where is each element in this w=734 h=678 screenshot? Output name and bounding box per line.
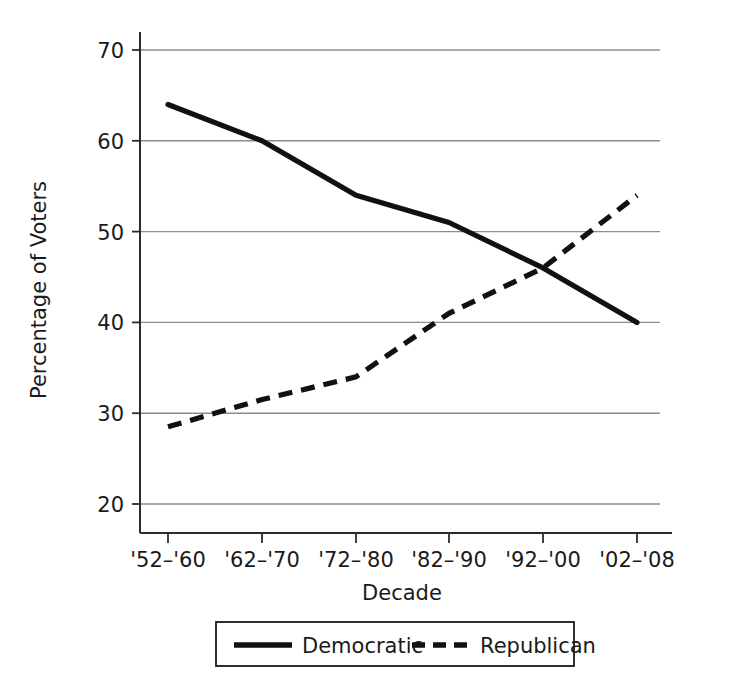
- y-tick-label-70: 70: [97, 39, 124, 63]
- voter-percentage-line-chart: 70 60 50 40 30 20 '52–'60 '62–'70 '72–'8…: [0, 0, 734, 678]
- legend-label-republican: Republican: [480, 634, 596, 658]
- x-tick-label-3: '72–'80: [318, 548, 394, 572]
- y-tick-label-50: 50: [97, 221, 124, 245]
- y-tick-labels: 70 60 50 40 30 20: [97, 39, 124, 517]
- series-line-republican: [168, 195, 637, 427]
- chart-figure: 70 60 50 40 30 20 '52–'60 '62–'70 '72–'8…: [0, 0, 734, 678]
- gridlines: [140, 50, 660, 504]
- chart-legend: Democratic Republican: [216, 622, 596, 666]
- x-tick-marks: [168, 533, 637, 543]
- y-tick-label-30: 30: [97, 402, 124, 426]
- x-tick-label-1: '52–'60: [130, 548, 206, 572]
- y-tick-label-20: 20: [97, 493, 124, 517]
- x-tick-label-2: '62–'70: [224, 548, 300, 572]
- y-tick-label-60: 60: [97, 130, 124, 154]
- x-axis-title: Decade: [362, 581, 442, 605]
- y-tick-label-40: 40: [97, 311, 124, 335]
- series-line-democratic: [168, 104, 637, 322]
- y-tick-marks: [132, 50, 140, 504]
- x-tick-label-5: '92–'00: [505, 548, 581, 572]
- y-axis-title: Percentage of Voters: [27, 181, 51, 399]
- x-tick-label-6: '02–'08: [599, 548, 675, 572]
- legend-label-democratic: Democratic: [302, 634, 423, 658]
- x-tick-labels: '52–'60 '62–'70 '72–'80 '82–'90 '92–'00 …: [130, 548, 675, 572]
- x-tick-label-4: '82–'90: [411, 548, 487, 572]
